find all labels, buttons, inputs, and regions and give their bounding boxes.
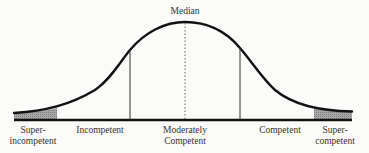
median-label: Median (165, 6, 205, 17)
bell-curve-diagram: Median Super- incompetent Incompetent Mo… (0, 0, 369, 153)
label-moderately-competent: Moderately Competent (155, 125, 215, 147)
label-super-competent: Super- competent (312, 125, 358, 147)
bell-curve (14, 22, 352, 113)
label-competent: Competent (255, 125, 305, 136)
label-super-incompetent: Super- incompetent (8, 125, 58, 147)
label-incompetent: Incompetent (70, 125, 130, 136)
